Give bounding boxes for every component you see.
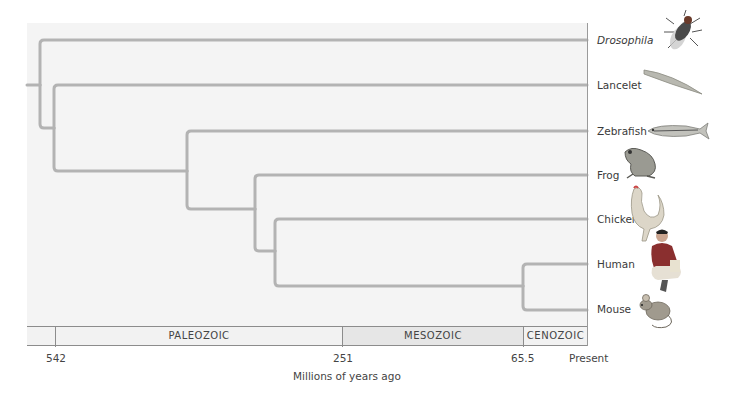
branch-chicken: [275, 219, 587, 251]
fly-icon: [662, 10, 704, 52]
mouse-icon: [636, 291, 676, 329]
branch-human: [523, 264, 587, 286]
era-cenozoic: CENOZOIC: [524, 327, 587, 345]
branch-node5-lower: [275, 251, 523, 286]
x-axis-title: Millions of years ago: [293, 370, 401, 382]
branch-node3-lower: [187, 171, 255, 209]
era-mesozoic: MESOZOIC: [343, 327, 523, 345]
geologic-era-bar: PALEOZOIC MESOZOIC CENOZOIC: [27, 326, 587, 346]
branch-mouse: [523, 286, 587, 310]
branch-node2-lower: [54, 128, 187, 171]
fish-icon: [646, 121, 710, 143]
frog-icon: [621, 146, 661, 180]
taxon-label-lancelet: Lancelet: [597, 79, 642, 91]
tick-label-542: 542: [46, 352, 66, 364]
taxon-label-zebrafish: Zebrafish: [597, 125, 647, 137]
tick-label-65-5: 65.5: [511, 352, 534, 364]
lancelet-icon: [642, 66, 704, 98]
taxon-label-frog: Frog: [597, 169, 619, 181]
branch-node1-lower: [40, 85, 54, 128]
present-rule: [587, 23, 588, 346]
phylogeny-figure: Drosophila Lancelet Zebrafish Frog Chick…: [0, 0, 735, 400]
branch-frog: [255, 175, 587, 209]
taxon-label-human: Human: [597, 258, 635, 270]
taxon-label-mouse: Mouse: [597, 303, 631, 315]
era-paleozoic: PALEOZOIC: [56, 327, 342, 345]
branch-lancelet: [54, 85, 587, 128]
tick-label-present: Present: [569, 352, 608, 364]
taxon-label-drosophila: Drosophila: [597, 34, 653, 46]
branch-drosophila: [40, 40, 587, 85]
tick-label-251: 251: [333, 352, 353, 364]
branch-zebrafish: [187, 131, 587, 171]
human-icon: [648, 228, 686, 294]
branch-node4-lower: [255, 209, 275, 251]
